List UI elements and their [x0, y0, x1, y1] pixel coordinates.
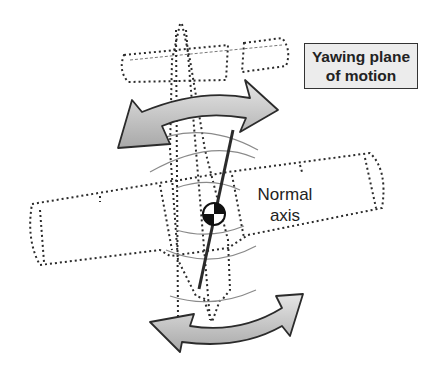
double-curved-arrow-bottom [150, 294, 303, 352]
title-line-2: of motion [305, 66, 417, 85]
title-line-1: Yawing plane [305, 47, 417, 66]
normal-axis-label: Normal axis [253, 184, 317, 226]
axis-label-line-1: Normal [253, 184, 317, 205]
double-curved-arrow-top [118, 80, 278, 148]
tail-stabilizer-outline [122, 38, 289, 82]
axis-label-line-2: axis [253, 205, 317, 226]
center-of-gravity-symbol [203, 203, 225, 225]
yawing-plane-label: Yawing plane of motion [304, 43, 418, 89]
